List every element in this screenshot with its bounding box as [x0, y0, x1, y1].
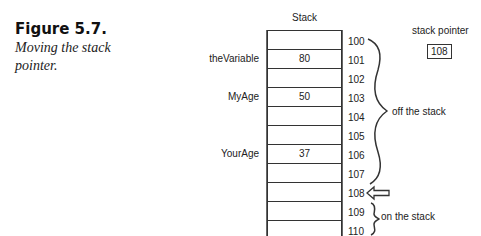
stack-pointer-arrow-icon [367, 187, 389, 199]
on-stack-brace-icon [371, 203, 379, 235]
diagram-overlay [0, 0, 481, 236]
off-stack-brace-icon [368, 39, 387, 184]
